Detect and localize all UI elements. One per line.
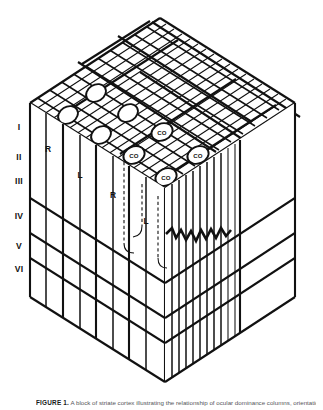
layer-label-ii: II	[16, 152, 21, 162]
co-blob-label: CO	[129, 152, 139, 159]
layer-label-i: I	[18, 122, 21, 132]
ocular-label-r-lower: R	[110, 190, 116, 200]
ocular-label-l-upper: L	[77, 170, 82, 180]
co-blob-label: CO	[157, 129, 167, 136]
ocular-label-r-upper: R	[45, 144, 51, 154]
layer-label-vi: VI	[15, 264, 24, 274]
layer-label-iv: IV	[15, 211, 24, 221]
figure-caption: FIGURE 1. A block of striate cortex illu…	[36, 399, 316, 406]
layer-label-iii: III	[15, 176, 23, 186]
figure-caption-label: FIGURE 1.	[36, 399, 69, 406]
cortical-column-diagram: .ink { stroke:#111111; fill:none; stroke…	[0, 0, 323, 410]
ocular-label-l-lower: L	[143, 216, 148, 226]
figure-root: .ink { stroke:#111111; fill:none; stroke…	[0, 0, 323, 410]
co-blob-label: CO	[161, 174, 171, 181]
co-blob-label: CO	[193, 152, 203, 159]
layer-label-group: I II III IV V VI	[15, 122, 24, 274]
figure-caption-text: A block of striate cortex illustrating t…	[70, 399, 316, 406]
layer-label-v: V	[16, 241, 22, 251]
